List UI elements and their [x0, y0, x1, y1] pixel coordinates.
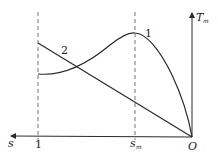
curve-2-label: 2: [61, 44, 68, 57]
curve-1-label: 1: [145, 27, 152, 40]
origin-label: O: [188, 140, 197, 153]
x-tick-sm-sub: m: [136, 143, 142, 150]
x-tick-1: 1: [35, 138, 42, 151]
y-axis-label-sub: m: [203, 17, 209, 24]
diagram-svg: 1 2 T m s 1 s m O: [0, 0, 218, 160]
torque-slip-diagram: 1 2 T m s 1 s m O: [0, 0, 218, 160]
curve-2: [38, 43, 192, 137]
x-axis-label: s: [8, 137, 14, 150]
x-axis: [11, 136, 192, 137]
